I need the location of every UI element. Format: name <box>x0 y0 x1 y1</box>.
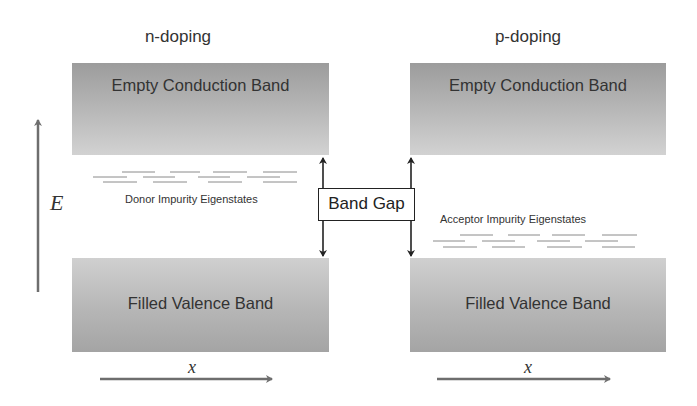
p-conduction-band-label: Empty Conduction Band <box>410 76 666 95</box>
energy-axis-label: E <box>50 190 63 216</box>
n-position-axis-label: x <box>188 357 196 378</box>
acceptor-impurity-levels <box>433 235 637 247</box>
band-gap-label-box: Band Gap <box>318 188 415 221</box>
p-doping-title: p-doping <box>428 27 628 47</box>
p-valence-band: Filled Valence Band <box>410 258 666 352</box>
n-valence-band-label: Filled Valence Band <box>72 294 329 313</box>
p-position-axis-label: x <box>524 357 532 378</box>
p-valence-band-label: Filled Valence Band <box>410 294 666 313</box>
p-conduction-band: Empty Conduction Band <box>410 63 666 155</box>
n-conduction-band: Empty Conduction Band <box>72 63 329 155</box>
n-valence-band: Filled Valence Band <box>72 258 329 352</box>
donor-impurity-label: Donor Impurity Eigenstates <box>125 193 258 205</box>
donor-impurity-levels <box>93 172 297 182</box>
acceptor-impurity-label: Acceptor Impurity Eigenstates <box>440 213 586 225</box>
n-conduction-band-label: Empty Conduction Band <box>72 76 329 95</box>
n-doping-title: n-doping <box>78 27 278 47</box>
